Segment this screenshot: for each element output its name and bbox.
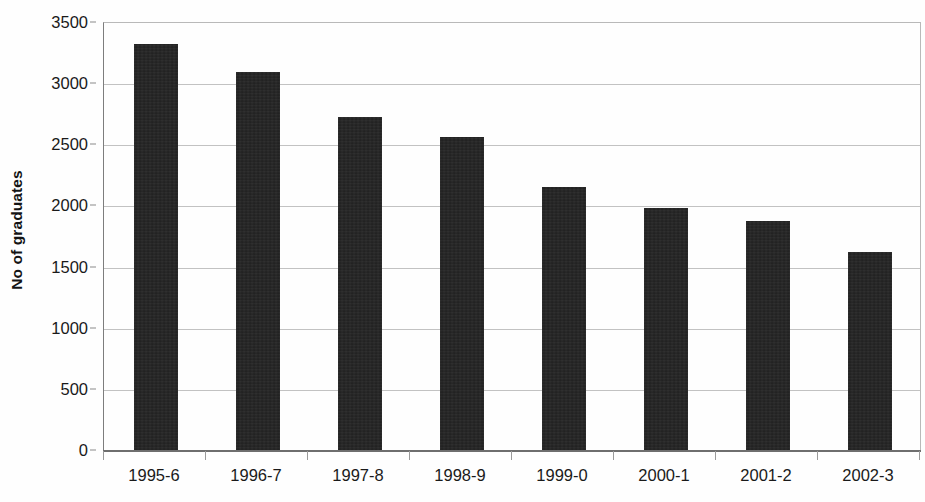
y-axis-tick-mark: [90, 144, 96, 145]
y-axis-tick-mark: [90, 266, 96, 267]
x-axis-tick-label: 1995-6: [128, 466, 179, 485]
x-axis-tick-marks: [103, 451, 921, 460]
x-axis-tick-label: 1998-9: [434, 466, 485, 485]
x-axis-tick-label: 2000-1: [638, 466, 689, 485]
x-axis-tick-label: 2002-3: [842, 466, 893, 485]
bar: [338, 117, 382, 451]
x-axis-tick-mark: [919, 451, 920, 460]
y-axis-tick-label: 3000: [51, 74, 88, 93]
y-axis-tick-labels: 0500100015002000250030003500: [34, 0, 96, 460]
y-axis-tick-mark: [90, 83, 96, 84]
x-axis-tick-mark: [613, 451, 614, 460]
x-axis-tick-mark: [511, 451, 512, 460]
y-axis-tick-label: 3500: [51, 13, 88, 32]
x-axis-tick-mark: [307, 451, 308, 460]
y-axis-tick-mark: [90, 22, 96, 23]
x-axis-tick-mark: [817, 451, 818, 460]
y-axis-tick-mark: [90, 450, 96, 451]
bar: [134, 44, 178, 451]
y-axis-tick-label: 1000: [51, 318, 88, 337]
x-axis-tick-mark: [103, 451, 104, 460]
y-axis-tick-mark: [90, 388, 96, 389]
x-axis-tick-labels: 1995-61996-71997-81998-91999-02000-12001…: [103, 466, 919, 496]
bar: [440, 137, 484, 451]
y-axis-tick-label: 0: [79, 441, 88, 460]
bar: [542, 187, 586, 451]
x-axis-tick-mark: [205, 451, 206, 460]
x-axis-tick-label: 1999-0: [536, 466, 587, 485]
bar: [848, 252, 892, 451]
bar: [236, 72, 280, 451]
x-axis-tick-label: 2001-2: [740, 466, 791, 485]
bars-group: [104, 23, 920, 451]
bar: [746, 221, 790, 451]
y-axis-tick-mark: [90, 205, 96, 206]
y-axis-title-text: No of graduates: [8, 170, 26, 289]
x-axis-tick-mark: [409, 451, 410, 460]
y-axis-title: No of graduates: [0, 0, 34, 460]
bar-chart: No of graduates 050010001500200025003000…: [0, 0, 925, 502]
y-axis-tick-label: 2000: [51, 196, 88, 215]
y-axis-tick-mark: [90, 327, 96, 328]
plot-area: [103, 22, 921, 451]
x-axis-tick-mark: [715, 451, 716, 460]
x-axis-tick-label: 1997-8: [332, 466, 383, 485]
bar: [644, 208, 688, 451]
y-axis-tick-label: 500: [60, 379, 88, 398]
y-axis-tick-label: 1500: [51, 257, 88, 276]
x-axis-tick-label: 1996-7: [230, 466, 281, 485]
y-axis-tick-label: 2500: [51, 135, 88, 154]
